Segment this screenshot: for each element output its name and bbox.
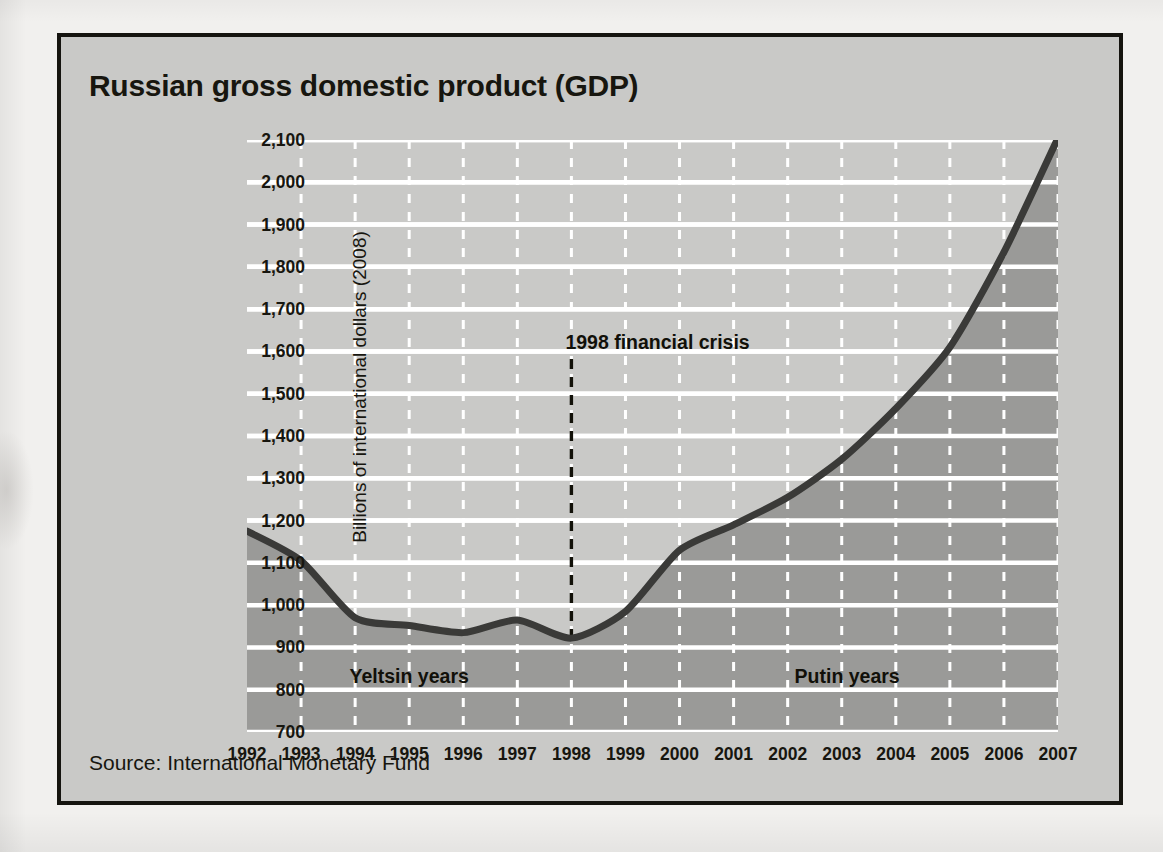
y-axis-tick-label: 1,300 bbox=[261, 468, 305, 489]
x-axis-tick-label: 1997 bbox=[498, 744, 537, 765]
y-axis-tick-label: 1,000 bbox=[261, 595, 305, 616]
x-axis-tick-label: 2003 bbox=[822, 744, 861, 765]
x-axis-tick-label: 2006 bbox=[984, 744, 1023, 765]
annotation-yeltsin-years: Yeltsin years bbox=[350, 665, 469, 688]
plot-area: Billions of international dollars (2008)… bbox=[247, 140, 1058, 732]
source-caption: Source: International Monetary Fund bbox=[89, 751, 430, 775]
y-axis-tick-label: 1,900 bbox=[261, 214, 305, 235]
x-axis-tick-label: 2000 bbox=[660, 744, 699, 765]
y-axis-tick-label: 1,800 bbox=[261, 256, 305, 277]
y-axis-tick-label: 2,100 bbox=[261, 130, 305, 151]
y-axis-tick-label: 1,200 bbox=[261, 510, 305, 531]
y-axis-tick-label: 2,000 bbox=[261, 172, 305, 193]
chart-figure: Russian gross domestic product (GDP) Bil… bbox=[57, 33, 1123, 805]
page-edge-shadow bbox=[0, 430, 34, 550]
x-axis-tick-label: 2004 bbox=[876, 744, 915, 765]
x-axis-tick-label: 2002 bbox=[768, 744, 807, 765]
y-axis-tick-label: 1,700 bbox=[261, 299, 305, 320]
y-axis-labels: 7008009001,0001,1001,2001,3001,4001,5001… bbox=[235, 140, 305, 732]
y-axis-tick-label: 1,600 bbox=[261, 341, 305, 362]
y-axis-tick-label: 1,500 bbox=[261, 383, 305, 404]
y-axis-tick-label: 900 bbox=[276, 637, 305, 658]
x-axis-tick-label: 2001 bbox=[714, 744, 753, 765]
x-axis-tick-label: 1996 bbox=[444, 744, 483, 765]
y-axis-title: Billions of international dollars (2008) bbox=[349, 177, 371, 597]
y-axis-tick-label: 800 bbox=[276, 679, 305, 700]
x-axis-tick-label: 1999 bbox=[606, 744, 645, 765]
annotation-1998-financial-crisis: 1998 financial crisis bbox=[565, 331, 749, 354]
y-axis-tick-label: 1,400 bbox=[261, 426, 305, 447]
x-axis-tick-label: 2007 bbox=[1039, 744, 1078, 765]
x-axis-tick-label: 2005 bbox=[930, 744, 969, 765]
y-axis-tick-label: 1,100 bbox=[261, 552, 305, 573]
chart-title: Russian gross domestic product (GDP) bbox=[89, 69, 638, 103]
annotation-putin-years: Putin years bbox=[795, 665, 900, 688]
x-axis-tick-label: 1998 bbox=[552, 744, 591, 765]
